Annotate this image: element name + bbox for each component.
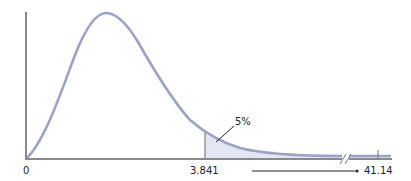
x-tick-critical: 3.841 (190, 166, 219, 176)
tail-label-leader (216, 126, 234, 142)
arrow-head-icon (355, 169, 358, 172)
x-tick-observed: 41.14 (364, 166, 393, 176)
x-tick-zero: 0 (23, 166, 29, 176)
tail-area-label: 5% (235, 117, 251, 127)
chi-square-chart (0, 0, 411, 181)
